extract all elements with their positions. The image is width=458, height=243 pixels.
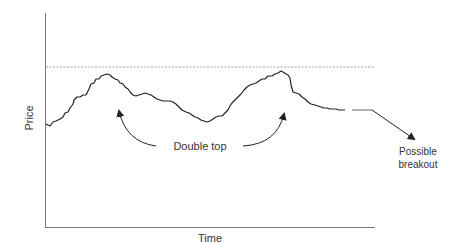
y-axis-label: Price (23, 105, 35, 130)
pattern-label: Double top (173, 140, 226, 152)
double-top-chart: Double top Possible breakout Time Price (0, 0, 458, 243)
right-peak-arrow (243, 114, 284, 146)
price-line (46, 71, 345, 126)
x-axis-label: Time (198, 232, 222, 243)
left-peak-arrow (119, 111, 156, 146)
breakout-arrow (372, 110, 414, 139)
breakout-label-line1: Possible (399, 146, 437, 157)
breakout-label-line2: breakout (399, 159, 438, 170)
